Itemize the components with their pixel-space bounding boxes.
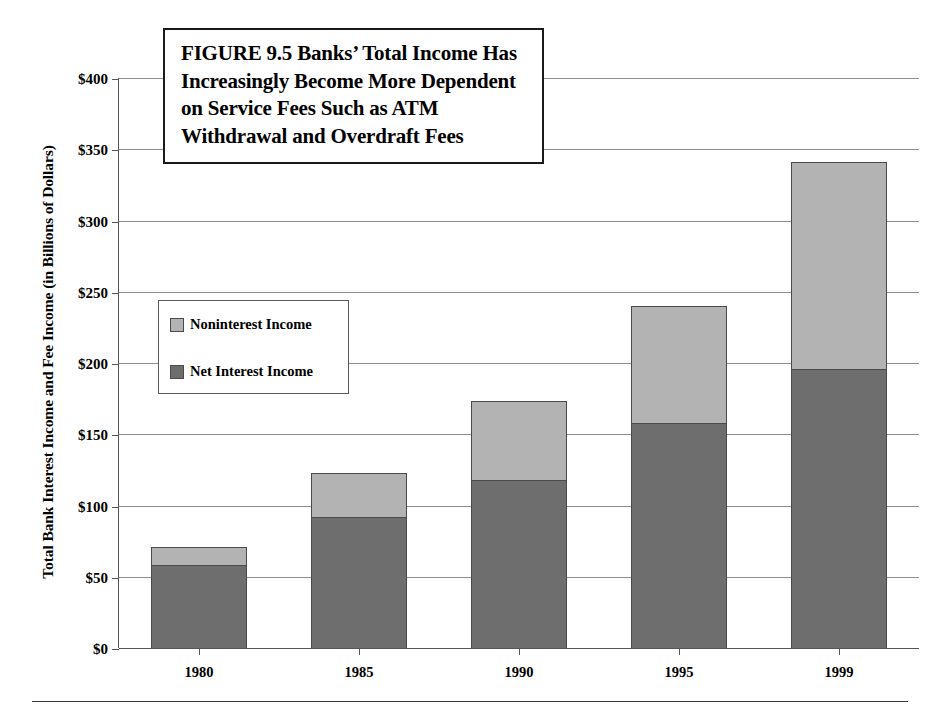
x-tick-label-1999: 1999 [825,664,854,681]
bar-segment-net-interest-income-1985[interactable] [311,517,407,648]
y-tick-label: $350 [78,142,108,159]
y-tick-label: $150 [78,427,108,444]
y-tick-mark [112,222,119,223]
legend-label-net-interest-income: Net Interest Income [190,363,313,380]
bar-group-1985[interactable]: 1985 [311,473,407,648]
figure-title-box: FIGURE 9.5 Banks’ Total Income Has Incre… [163,28,544,164]
x-tick-mark [519,648,520,655]
figure-title-line-1: FIGURE 9.5 Banks’ Total Income Has [181,40,528,68]
y-tick-label: $0 [93,641,108,658]
chart-legend: Noninterest Income Net Interest Income [158,300,349,394]
y-tick-label: $400 [78,71,108,88]
bar-group-1999[interactable]: 1999 [791,162,887,648]
x-tick-mark [359,648,360,655]
legend-item-net-interest-income: Net Interest Income [170,363,348,380]
figure-title-line-2: Increasingly Become More Dependent [181,68,528,96]
x-tick-mark [679,648,680,655]
y-tick-label: $100 [78,498,108,515]
figure-title-line-3: on Service Fees Such as ATM [181,95,528,123]
y-tick-label: $300 [78,213,108,230]
y-tick-mark [112,79,119,80]
y-tick-mark [112,507,119,508]
x-tick-label-1990: 1990 [505,664,534,681]
y-tick-mark [112,649,119,650]
x-tick-label-1980: 1980 [185,664,214,681]
footer-rule [32,701,908,702]
x-tick-mark [839,648,840,655]
legend-swatch-icon-net-interest-income [170,365,184,379]
y-tick-label: $50 [86,569,109,586]
y-tick-mark [112,364,119,365]
figure-title-line-4: Withdrawal and Overdraft Fees [181,123,528,151]
y-tick-mark [112,293,119,294]
figure-container: Total Bank Interest Income and Fee Incom… [0,0,936,718]
bar-segment-net-interest-income-1999[interactable] [791,369,887,648]
x-tick-label-1995: 1995 [665,664,694,681]
bar-segment-noninterest-income-1985[interactable] [311,473,407,517]
x-tick-mark [199,648,200,655]
bar-group-1995[interactable]: 1995 [631,306,727,648]
bar-segment-noninterest-income-1999[interactable] [791,162,887,369]
y-tick-mark [112,435,119,436]
bar-segment-noninterest-income-1995[interactable] [631,306,727,423]
bar-segment-net-interest-income-1990[interactable] [471,480,567,648]
bar-group-1990[interactable]: 1990 [471,401,567,648]
bar-group-1980[interactable]: 1980 [151,547,247,648]
y-tick-label: $250 [78,284,108,301]
legend-item-noninterest-income: Noninterest Income [170,316,348,333]
y-tick-label: $200 [78,356,108,373]
bar-segment-noninterest-income-1980[interactable] [151,547,247,566]
legend-label-noninterest-income: Noninterest Income [190,316,312,333]
y-tick-mark [112,150,119,151]
bar-segment-net-interest-income-1980[interactable] [151,565,247,648]
x-tick-label-1985: 1985 [345,664,374,681]
bar-segment-net-interest-income-1995[interactable] [631,423,727,648]
legend-swatch-icon-noninterest-income [170,318,184,332]
y-axis-title: Total Bank Interest Income and Fee Incom… [39,62,57,662]
bar-segment-noninterest-income-1990[interactable] [471,401,567,479]
y-tick-mark [112,578,119,579]
